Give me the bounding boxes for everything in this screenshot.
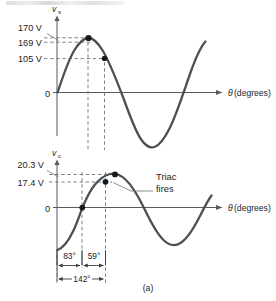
- dim-label-142deg: 142°: [73, 274, 90, 284]
- bottom-x-axis-label-theta: θ: [228, 203, 233, 213]
- waveform-figure-svg: 170 V 169 V 105 V 0 v s θ (degrees): [0, 0, 276, 301]
- bottom-marker-zero-cross-dot: [79, 205, 85, 211]
- top-chart-y-axis-arrow: [54, 16, 59, 22]
- bottom-y-axis-label-subscript: c: [58, 152, 61, 159]
- bottom-marker-peak-dot: [112, 172, 118, 178]
- bottom-marker-triac-fires-dot: [103, 179, 109, 185]
- top-tick-label-169v: 169 V: [18, 38, 43, 48]
- top-y-axis-label-subscript: s: [58, 8, 61, 15]
- bottom-tick-label-20-3v: 20.3 V: [17, 160, 44, 170]
- dim-label-59deg: 59°: [88, 251, 101, 261]
- top-x-axis-label-units: (degrees): [234, 88, 271, 98]
- top-x-axis-label-theta: θ: [228, 88, 233, 98]
- dimension-group: 83° 59° 142°: [57, 250, 106, 285]
- top-tick-label-105v: 105 V: [18, 54, 43, 64]
- bottom-chart-group: 20.3 V 17.4 V 0 v c θ (degrees) Triac fi…: [17, 148, 270, 281]
- figure-caption: (a): [143, 283, 154, 293]
- bottom-tick-label-17-4v: 17.4 V: [17, 178, 44, 188]
- top-tick-label-zero: 0: [45, 89, 50, 99]
- bottom-chart-y-axis-arrow: [54, 160, 59, 166]
- triac-fires-annotation-line2: fires: [156, 183, 174, 194]
- bottom-x-axis-label-units: (degrees): [234, 203, 271, 213]
- top-y-axis-label: v: [52, 4, 57, 14]
- top-chart-group: 170 V 169 V 105 V 0 v s θ (degrees): [18, 4, 271, 150]
- top-marker-169v-dot: [85, 35, 91, 41]
- bottom-chart-sine-curve: [58, 174, 212, 250]
- triac-fires-annotation-line1: Triac: [156, 171, 177, 182]
- bottom-y-axis-label: v: [52, 148, 57, 158]
- figure-container: 170 V 169 V 105 V 0 v s θ (degrees): [0, 0, 276, 301]
- top-marker-105v-dot: [102, 56, 107, 61]
- dim-label-83deg: 83°: [63, 251, 76, 261]
- top-tick-label-170v: 170 V: [18, 23, 43, 33]
- bottom-tick-label-zero: 0: [45, 204, 50, 214]
